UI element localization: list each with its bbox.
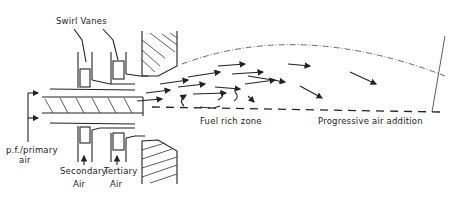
primary-air-inlet xyxy=(28,93,38,142)
swirl-vane-leader-1 xyxy=(74,29,86,62)
secondary-swirl-vane-lower xyxy=(80,127,90,143)
secondary-annulus-wall-upper xyxy=(50,89,135,90)
central-fuel-pipe xyxy=(42,97,143,116)
tertiary-swirl-vane-lower xyxy=(113,133,124,150)
tertiary-swirl-vane-upper xyxy=(113,61,124,79)
lower-tertiary-register xyxy=(111,133,145,162)
tertiary-air-label-line2: Air xyxy=(110,179,123,189)
secondary-annulus-wall-lower xyxy=(50,123,135,124)
furnace-boundary xyxy=(432,36,445,112)
secondary-air-label-line2: Air xyxy=(73,179,86,189)
secondary-air-label-line1: Secondary xyxy=(60,166,107,176)
tertiary-air-label-line1: Tertiary xyxy=(103,166,138,176)
flow-arrows xyxy=(137,64,376,101)
pf-primary-air-label-line2: air xyxy=(19,155,31,165)
pf-primary-air-label-line1: p.f./primary xyxy=(6,145,58,155)
lower-quarl xyxy=(142,140,177,184)
secondary-swirl-vane-upper xyxy=(80,69,90,87)
swirl-vanes-label: Swirl Vanes xyxy=(56,16,107,26)
flame-envelope xyxy=(182,45,445,76)
fuel-rich-zone-label: Fuel rich zone xyxy=(200,116,262,126)
burner-diagram: Swirl Vanes xyxy=(0,0,455,202)
centreline xyxy=(152,107,440,112)
upper-quarl xyxy=(142,31,177,76)
recirculation-eddies xyxy=(181,92,254,108)
progressive-air-addition-label: Progressive air addition xyxy=(318,116,423,126)
